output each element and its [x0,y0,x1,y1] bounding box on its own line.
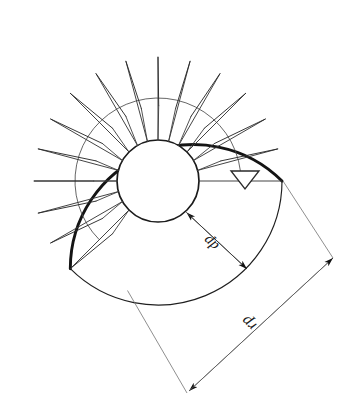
tread-nosing-segment [51,219,103,244]
inner-nosing-segment [179,116,192,145]
inner-nosing-segment [113,210,130,234]
extension-line-top-right [283,181,333,258]
inner-nosing-segment [141,108,147,141]
spiral-staircase-figure: dp rp [0,0,354,417]
inner-nosing-segment [198,161,221,171]
tread-nosing-segment [204,93,245,128]
inner-nosing-segment [169,108,176,141]
tread-radial-line [51,119,123,161]
plan-radius-label: rp [237,312,260,335]
inner-nosing-segment [102,144,122,161]
tread-radial-line [38,149,118,171]
plan-radius-dimension: rp [189,258,333,391]
tread-radial-line [126,61,147,141]
pole-diameter-label: dp [199,232,221,254]
tread-nosing-segment [96,74,126,117]
inner-nosing-segment [113,128,130,152]
tread-nosing-segment [51,119,103,144]
tread-nosing-segment [176,61,191,108]
drawing-canvas: dp rp [0,0,354,417]
extension-line-bottom-left [128,291,188,394]
tread-radial-line [38,192,118,214]
tread-nosing-segment [70,93,112,128]
pole-diameter-dimension: dp [187,213,248,270]
plan-radius-dim-line-back [189,258,333,391]
inner-nosing-segment [187,128,204,152]
tread-radial-line [70,93,129,152]
tread-nosing-segment [215,119,266,144]
level-datum-triangle-icon [231,171,259,189]
tread-nosing-segment [38,149,96,161]
inner-nosing-segment [102,202,122,219]
tread-nosing-segment [70,234,112,269]
tread-radial-line [187,93,246,152]
inner-nosing-segment [126,116,138,145]
tread-nosing-segment [191,74,220,117]
